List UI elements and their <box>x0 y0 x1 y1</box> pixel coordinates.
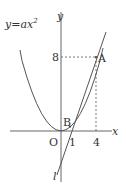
point-a-marker <box>95 56 97 58</box>
origin-label: O <box>49 136 58 149</box>
point-a-label: A <box>97 52 107 65</box>
tick-label-4: 4 <box>93 136 100 149</box>
curve-label: y=ax2 <box>4 17 38 31</box>
tick-label-1: 1 <box>69 136 76 149</box>
diagram-canvas: y=ax2 y x O 1 4 8 A B l <box>0 0 126 188</box>
x-axis-label: x <box>112 125 119 138</box>
y-axis-label: y <box>56 10 64 23</box>
point-b-label: B <box>63 116 71 129</box>
tick-label-8: 8 <box>52 51 59 64</box>
line-l-label: l <box>53 170 57 183</box>
